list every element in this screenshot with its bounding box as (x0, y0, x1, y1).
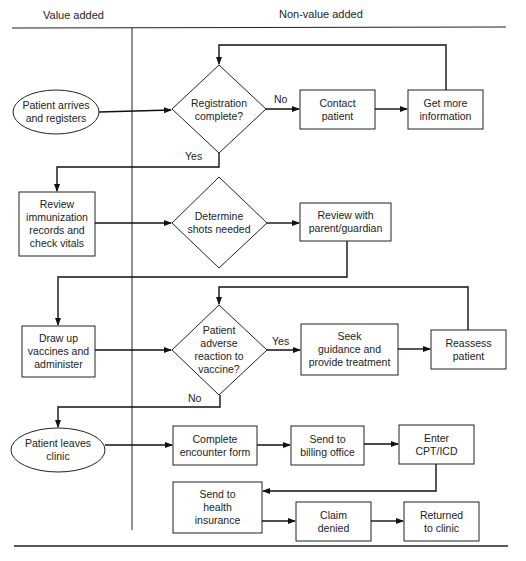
header-divider (12, 27, 506, 28)
label-claim-denied: Claimdenied (296, 502, 371, 541)
edge-label-adverse-no: No (188, 392, 201, 404)
label-review-parent: Review withparent/guardian (300, 203, 391, 241)
label-returned-clinic: Returnedto clinic (404, 502, 479, 541)
lane-header-value-added: Value added (43, 9, 104, 21)
label-patient-leaves: Patient leavesclinic (11, 432, 105, 468)
edge-label-registration-yes: Yes (185, 150, 202, 162)
label-determine-shots: Determineshots needed (180, 205, 258, 241)
label-draw-vaccines: Draw upvaccines andadminister (22, 326, 95, 377)
edge-label-registration-no: No (274, 93, 287, 105)
label-enter-cpt: EnterCPT/ICD (399, 425, 474, 464)
label-seek-guidance: Seekguidance andprovide treatment (301, 324, 398, 375)
label-patient-arrives: Patient arrivesand registers (13, 94, 99, 130)
label-encounter-form: Completeencounter form (173, 426, 257, 465)
flowchart-canvas (0, 0, 526, 561)
label-reassess: Reassesspatient (431, 330, 506, 369)
label-billing-office: Send tobilling office (291, 426, 364, 465)
lane-header-non-value-added: Non-value added (279, 8, 363, 20)
label-contact-patient: Contactpatient (300, 90, 375, 129)
label-registration-complete: Registrationcomplete? (180, 92, 258, 128)
label-get-more-info: Get moreinformation (408, 90, 483, 129)
label-review-immunization: Reviewimmunizationrecords andcheck vital… (19, 192, 95, 256)
label-adverse-reaction: Patientadversereaction tovaccine? (180, 322, 258, 378)
label-health-insurance: Send tohealthinsurance (173, 482, 262, 533)
edge-label-adverse-yes: Yes (272, 335, 289, 347)
